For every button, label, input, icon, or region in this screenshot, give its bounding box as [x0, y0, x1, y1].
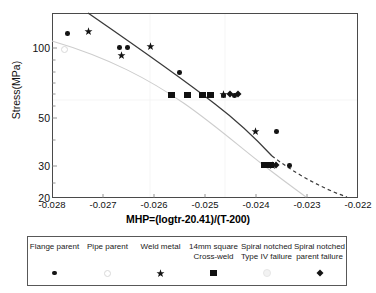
legend-marker-wrap	[134, 267, 187, 279]
legend-label-line1: Spiral notched	[241, 242, 292, 252]
diamond-icon	[316, 269, 324, 277]
legend-marker-wrap	[81, 267, 134, 279]
point-flange-parent	[274, 129, 279, 134]
faint-circle-icon	[263, 269, 271, 277]
legend-marker-wrap	[187, 267, 240, 279]
legend-label-line2: Cross-weld	[193, 252, 233, 262]
legend-marker-wrap	[28, 267, 81, 279]
legend-marker-wrap	[240, 267, 293, 279]
faint-gridlines	[53, 14, 357, 197]
point-cross-weld	[168, 92, 175, 98]
legend-item-pipe-parent: Pipe parent	[81, 237, 134, 285]
legend-item-cross-weld: 14mm square Cross-weld	[187, 237, 240, 285]
legend-label: Pipe parent	[87, 242, 128, 252]
y-minor-ticks	[52, 48, 57, 183]
legend-item-spiral-type-iv: Spiral notched Type IV failure	[240, 237, 293, 285]
point-flange-parent	[177, 70, 182, 75]
upper-mean-line	[88, 13, 272, 156]
point-spiral-parent-failure	[272, 161, 280, 169]
legend-label: Flange parent	[30, 242, 79, 252]
point-flange-parent	[125, 45, 130, 50]
chart-root: 100 50 30 20 -0.028 -0.027 -0.026 -0.025…	[0, 0, 376, 293]
legend-label: Weld metal	[141, 242, 181, 252]
open-circle-icon	[104, 270, 111, 277]
legend: Flange parent Pipe parent Weld metal 14m…	[27, 236, 347, 286]
point-weld-metal	[251, 127, 260, 136]
star-icon	[156, 269, 165, 278]
point-pipe-parent	[61, 46, 68, 53]
legend-label-line1: Spiral notched	[294, 242, 345, 252]
point-weld-metal	[84, 27, 93, 36]
legend-label-line2: parent failure	[296, 252, 343, 262]
legend-label-line1: 14mm square	[189, 242, 238, 252]
point-flange-parent	[117, 45, 122, 50]
chart-canvas: 100 50 30 20 -0.028 -0.027 -0.026 -0.025…	[0, 0, 376, 232]
legend-item-flange-parent: Flange parent	[28, 237, 81, 285]
point-weld-metal	[146, 42, 155, 51]
legend-marker-wrap	[293, 267, 346, 279]
point-cross-weld	[199, 92, 206, 98]
point-flange-parent	[65, 31, 70, 36]
square-icon	[210, 270, 217, 276]
legend-label-line2: Type IV failure	[241, 252, 292, 262]
legend-item-weld-metal: Weld metal	[134, 237, 187, 285]
point-cross-weld	[207, 92, 214, 98]
point-flange-parent	[287, 163, 292, 168]
chart-svg	[0, 0, 376, 232]
point-cross-weld	[184, 92, 191, 98]
legend-item-spiral-parent-failure: Spiral notched parent failure	[293, 237, 346, 285]
upper-mean-line-extension	[272, 156, 347, 197]
point-spiral-parent-failure	[234, 90, 242, 98]
point-spiral-parent-failure	[226, 90, 234, 98]
lower-bound-curve	[52, 41, 306, 197]
filled-circle-icon	[52, 271, 57, 276]
point-weld-metal	[117, 51, 126, 60]
x-minor-ticks	[103, 194, 307, 198]
